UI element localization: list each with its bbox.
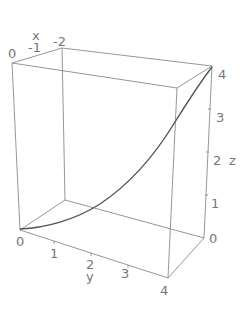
box-edge-bottom-right <box>168 238 204 278</box>
y-tick-1: 1 <box>50 246 58 261</box>
3d-plot: 0 -1 -2 x 0 1 2 y 3 4 4 3 2 z 1 0 <box>0 0 248 314</box>
y-tick-0: 0 <box>16 234 24 249</box>
box-edge-vertical-front-right <box>168 88 177 278</box>
y-axis-label: y <box>86 269 94 284</box>
z-tick-3: 3 <box>216 110 224 125</box>
box-edge-bottom-left <box>20 200 65 230</box>
z-tick-0: 0 <box>209 231 217 246</box>
y-tick-4: 4 <box>160 283 168 298</box>
box-edge-vertical-front-left <box>12 63 20 230</box>
bounding-box <box>12 48 212 278</box>
box-edge-top-front <box>12 63 177 88</box>
box-edge-top-right <box>177 66 212 88</box>
box-edge-bottom-back <box>65 200 204 238</box>
data-curve <box>20 67 212 229</box>
z-tick-4: 4 <box>218 67 226 82</box>
box-edge-top-back <box>62 48 212 66</box>
z-tick-1: 1 <box>211 196 219 211</box>
x-axis-label: x <box>32 28 40 43</box>
y-tick-3: 3 <box>121 266 129 281</box>
z-axis-ticks <box>205 109 211 195</box>
x-tick-0: 0 <box>8 46 16 61</box>
z-axis-label: z <box>229 153 236 168</box>
x-tick-neg2: -2 <box>53 34 66 49</box>
z-tick-2: 2 <box>213 153 221 168</box>
